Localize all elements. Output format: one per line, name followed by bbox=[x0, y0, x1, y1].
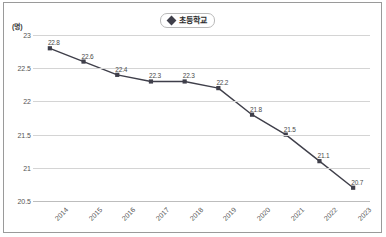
data-point-marker bbox=[183, 79, 187, 83]
chart-legend[interactable]: 초등학교 bbox=[160, 13, 215, 28]
data-point-label: 22.4 bbox=[115, 66, 127, 73]
gridline bbox=[33, 35, 370, 36]
data-point-marker bbox=[317, 159, 321, 163]
data-point-label: 22.3 bbox=[183, 72, 195, 79]
gridline bbox=[33, 135, 370, 136]
y-axis-tick-label: 21.5 bbox=[17, 131, 34, 138]
data-point-label: 21.1 bbox=[318, 152, 330, 159]
y-axis-unit-label: (명) bbox=[12, 21, 23, 31]
data-point-marker bbox=[216, 86, 220, 90]
gridline bbox=[33, 68, 370, 69]
data-point-label: 21.5 bbox=[284, 126, 296, 133]
data-point-label: 20.7 bbox=[351, 179, 363, 186]
data-point-marker bbox=[115, 73, 119, 77]
y-axis-tick-label: 22 bbox=[23, 98, 34, 105]
series-line-chart bbox=[33, 35, 370, 201]
data-point-marker bbox=[351, 186, 355, 190]
data-point-label: 22.8 bbox=[48, 39, 60, 46]
chart-figure: 초등학교 (명) 2322.52221.52120.52014201520162… bbox=[0, 0, 386, 237]
legend-item-label: 초등학교 bbox=[179, 17, 207, 25]
data-point-marker bbox=[81, 59, 85, 63]
y-axis-tick-label: 22.5 bbox=[17, 65, 34, 72]
gridline bbox=[33, 201, 370, 202]
series-polyline bbox=[50, 48, 353, 187]
data-point-label: 22.6 bbox=[82, 53, 94, 60]
y-axis-tick-label: 20.5 bbox=[17, 198, 34, 205]
diamond-marker-icon bbox=[167, 16, 177, 26]
plot-area: 2322.52221.52120.52014201520162017201820… bbox=[33, 35, 370, 201]
y-axis-tick-label: 21 bbox=[23, 164, 34, 171]
data-point-label: 22.2 bbox=[216, 79, 228, 86]
data-point-marker bbox=[48, 46, 52, 50]
y-axis-tick-label: 23 bbox=[23, 32, 34, 39]
gridline bbox=[33, 168, 370, 169]
data-point-label: 22.3 bbox=[149, 72, 161, 79]
gridline bbox=[33, 101, 370, 102]
data-point-marker bbox=[250, 113, 254, 117]
data-point-label: 21.8 bbox=[250, 106, 262, 113]
data-point-marker bbox=[149, 79, 153, 83]
